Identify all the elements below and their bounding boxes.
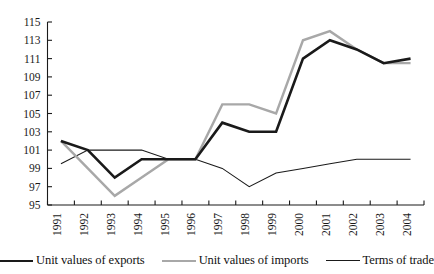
series-line-thin-black xyxy=(61,150,411,187)
legend-label: Terms of trade xyxy=(363,253,434,268)
y-axis-tick-label: 109 xyxy=(23,71,41,83)
y-axis-tick-label: 95 xyxy=(29,199,41,211)
legend-swatch-icon xyxy=(326,260,360,261)
x-axis-tick-label: 1993 xyxy=(105,213,117,236)
x-axis-tick-label: 2002 xyxy=(347,213,359,236)
legend-label: Unit values of imports xyxy=(199,253,309,268)
x-axis-tick-label: 1997 xyxy=(212,213,224,236)
y-axis-tick-label: 97 xyxy=(29,181,41,193)
y-axis-tick-label: 113 xyxy=(24,34,41,46)
y-axis-tick-marks xyxy=(48,22,53,205)
x-axis-tick-label: 2004 xyxy=(401,213,413,236)
legend-entry[interactable]: Unit values of imports xyxy=(162,253,309,268)
x-axis-tick-label: 1991 xyxy=(51,213,63,236)
legend-label: Unit values of exports xyxy=(36,253,145,268)
y-axis-tick-label: 107 xyxy=(23,89,41,101)
x-axis-tick-label: 2000 xyxy=(293,213,305,236)
legend-swatch-icon xyxy=(162,260,196,262)
x-axis-tick-label: 2003 xyxy=(374,213,386,236)
x-axis-tick-label: 1994 xyxy=(132,213,144,236)
chart-svg: 959799101103105107109111113115 199119921… xyxy=(0,0,433,246)
x-axis-tick-label: 1999 xyxy=(266,213,278,236)
x-axis-tick-label: 1992 xyxy=(78,213,90,236)
x-axis-tick-label: 2001 xyxy=(320,213,332,236)
y-axis-tick-labels: 959799101103105107109111113115 xyxy=(23,16,41,211)
y-axis-tick-label: 111 xyxy=(24,53,41,65)
x-axis-tick-labels: 1991199219931994199519961997199819992000… xyxy=(51,213,413,236)
plot-area: 959799101103105107109111113115 199119921… xyxy=(0,0,433,246)
legend-entry[interactable]: Terms of trade xyxy=(326,253,434,268)
y-axis-tick-label: 101 xyxy=(23,144,41,156)
x-axis-tick-marks xyxy=(48,201,425,206)
legend-swatch-icon xyxy=(0,260,33,262)
legend-entry[interactable]: Unit values of exports xyxy=(0,253,145,268)
y-axis-tick-label: 99 xyxy=(29,162,41,174)
y-axis-tick-label: 115 xyxy=(24,16,41,28)
series-line-thick-black xyxy=(61,40,411,177)
chart-legend: Unit values of exportsUnit values of imp… xyxy=(0,247,433,274)
x-axis-tick-label: 1995 xyxy=(159,213,171,236)
y-axis-tick-label: 105 xyxy=(23,108,41,120)
x-axis-tick-label: 1996 xyxy=(185,213,197,236)
data-series-group xyxy=(61,31,411,196)
x-axis-tick-label: 1998 xyxy=(239,213,251,236)
series-line-thick-gray xyxy=(61,31,411,196)
y-axis-tick-label: 103 xyxy=(23,126,41,138)
